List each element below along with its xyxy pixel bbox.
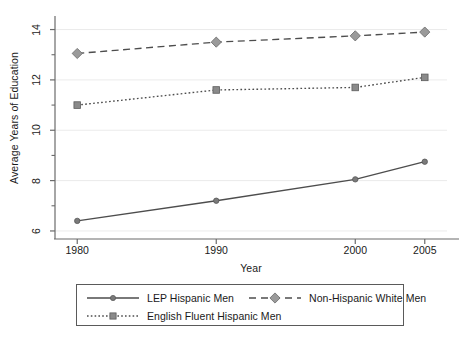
data-point-marker <box>75 218 80 223</box>
data-point-marker <box>353 177 358 182</box>
series-non-hispanic-white-men <box>72 27 430 59</box>
x-axis-tick-label: 2000 <box>332 244 378 256</box>
x-axis-title: Year <box>55 262 447 274</box>
series-english-fluent-hispanic-men <box>74 74 428 108</box>
data-point-marker <box>74 102 81 109</box>
y-axis-tick-label: 12 <box>26 73 46 87</box>
x-axis-tick-label: 1990 <box>193 244 239 256</box>
data-point-marker <box>213 87 220 94</box>
chart-figure: Average Years of Education 68101214 1980… <box>0 0 472 337</box>
y-axis-tick-label: 14 <box>26 23 46 37</box>
legend-entry-lep: LEP Hispanic Men <box>85 289 234 307</box>
legend-label-nhw: Non-Hispanic White Men <box>309 292 426 304</box>
y-axis-tick-label: 8 <box>26 174 46 188</box>
series-lep-hispanic-men <box>75 159 428 224</box>
legend-entry-nhw: Non-Hispanic White Men <box>247 289 426 307</box>
y-axis-tick-label: 10 <box>26 123 46 137</box>
plot-area <box>0 0 472 270</box>
y-axis-tick-label: 6 <box>26 224 46 238</box>
data-point-marker <box>352 84 359 91</box>
data-point-marker <box>72 48 82 58</box>
x-axis-tick-label: 1980 <box>54 244 100 256</box>
series-line <box>77 32 425 53</box>
legend-key-dotted-square-icon <box>85 309 141 323</box>
data-point-marker <box>422 159 427 164</box>
series-line <box>77 77 425 105</box>
legend-key-solid-circle-icon <box>85 291 141 305</box>
legend-label-lep: LEP Hispanic Men <box>147 292 234 304</box>
legend-key-dashed-diamond-icon <box>247 291 303 305</box>
data-point-marker <box>420 27 430 37</box>
legend-entry-efh: English Fluent Hispanic Men <box>85 307 281 325</box>
data-point-marker <box>350 31 360 41</box>
data-point-marker <box>214 198 219 203</box>
x-axis-tick-label: 2005 <box>402 244 448 256</box>
series-line <box>77 162 425 221</box>
legend-label-efh: English Fluent Hispanic Men <box>147 310 281 322</box>
data-point-marker <box>211 37 221 47</box>
data-point-marker <box>421 74 428 81</box>
chart-legend: LEP Hispanic Men Non-Hispanic White Men … <box>76 284 404 326</box>
